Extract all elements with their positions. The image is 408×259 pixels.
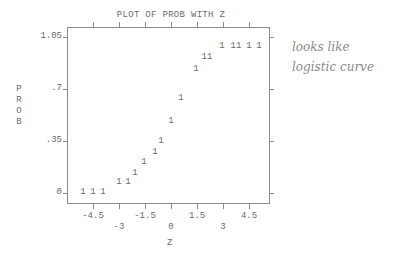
y-tick-mark-right xyxy=(270,141,274,142)
y-axis-label-letter: O xyxy=(15,106,23,116)
data-point: 1 xyxy=(168,117,174,126)
x-tick-mark xyxy=(93,204,94,209)
x-tick-label: 1.5 xyxy=(182,211,212,221)
x-tick-label: -1.5 xyxy=(130,211,160,221)
x-tick-mark-top xyxy=(93,22,94,27)
x-tick-label: -4.5 xyxy=(78,211,108,221)
y-tick-mark xyxy=(63,89,67,90)
x-tick-mark-top xyxy=(171,22,172,27)
y-tick-mark-right xyxy=(270,37,274,38)
y-axis-label-letter: B xyxy=(15,117,23,127)
data-point: 1 xyxy=(100,188,106,197)
y-tick-mark xyxy=(63,193,67,194)
y-tick-mark xyxy=(63,141,67,142)
data-point: 1 xyxy=(141,158,147,167)
chart-title-text: PLOT OF PROB WITH Z xyxy=(117,10,225,20)
data-point: 11 xyxy=(201,53,213,62)
x-tick-mark-top xyxy=(223,22,224,27)
data-point: 1 xyxy=(90,188,96,197)
data-point: 1 xyxy=(178,94,184,103)
x-tick-mark xyxy=(119,204,120,209)
data-point: 1 xyxy=(256,42,262,51)
y-tick-mark-right xyxy=(270,193,274,194)
data-point: 1 xyxy=(132,169,138,178)
data-point: 1 xyxy=(219,42,225,51)
x-tick-label: 4.5 xyxy=(234,211,264,221)
x-tick-mark xyxy=(145,204,146,209)
x-axis-label: Z xyxy=(167,238,172,248)
x-tick-label: 0 xyxy=(156,222,186,232)
data-point: 1 xyxy=(158,137,164,146)
data-point: 1 xyxy=(193,65,199,74)
y-tick-mark xyxy=(63,37,67,38)
data-point: 1 xyxy=(116,178,122,187)
data-point: 11 xyxy=(230,42,242,51)
x-tick-mark-top xyxy=(145,22,146,27)
handwritten-note-line1: looks like xyxy=(292,40,350,54)
data-point: 1 xyxy=(152,148,158,157)
chart-title: PLOT OF PROB WITH Z xyxy=(0,10,408,20)
y-tick-label: 0 xyxy=(22,187,62,197)
y-tick-mark-right xyxy=(270,89,274,90)
y-tick-label: .7 xyxy=(22,83,62,93)
x-tick-mark xyxy=(249,204,250,209)
data-point: 1 xyxy=(125,178,131,187)
y-tick-label: .35 xyxy=(22,135,62,145)
x-tick-mark xyxy=(223,204,224,209)
data-point: 1 xyxy=(246,42,252,51)
x-tick-mark-top xyxy=(197,22,198,27)
y-axis-label-letter: R xyxy=(15,95,23,105)
x-tick-mark-top xyxy=(249,22,250,27)
x-tick-label: 3 xyxy=(208,222,238,232)
x-tick-mark-top xyxy=(119,22,120,27)
x-tick-label: -3 xyxy=(104,222,134,232)
handwritten-note-line2: logistic curve xyxy=(292,60,374,74)
y-tick-label: 1.05 xyxy=(22,31,62,41)
data-point: 1 xyxy=(80,188,86,197)
x-tick-mark xyxy=(171,204,172,209)
x-tick-mark xyxy=(197,204,198,209)
